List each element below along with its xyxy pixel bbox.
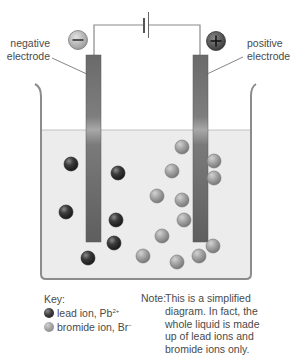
lead-ion [107,236,121,250]
bromide-ion [136,249,150,263]
note-text: This is a simplified diagram. In fact, t… [165,292,265,356]
legend: Key: lead ion, Pb2+ bromide ion, Br− [44,292,132,334]
bromide-ion [175,193,189,207]
note-heading: Note: [141,292,165,356]
negative-electrode [86,55,101,242]
negative-electrode-label: negative electrode [2,37,50,62]
positive-electrode-pointer [205,57,243,75]
lead-ion [111,166,125,180]
bromide-ion [206,239,220,253]
battery-icon [144,12,149,38]
legend-item-lead: lead ion, Pb2+ [44,306,132,320]
negative-electrode-pointer [52,58,89,75]
positive-electrode-label: positive electrode [247,37,297,62]
bromide-ion [175,140,189,154]
bromide-ion [177,213,191,227]
bromide-ion [170,255,184,269]
bromide-ion-icon [44,322,54,332]
legend-item-bromide: bromide ion, Br− [44,320,132,334]
lead-ion [109,213,123,227]
note: Note: This is a simplified diagram. In f… [141,292,265,356]
negative-terminal-icon [69,31,88,50]
bromide-ion [207,154,221,168]
lead-ion-icon [44,308,54,318]
bromide-ion [155,229,169,243]
positive-terminal-icon [207,32,226,51]
bromide-ion [165,164,179,178]
circuit-wire [94,25,200,55]
bromide-ion [207,171,221,185]
bromide-ion [192,249,206,263]
lead-ion [64,157,78,171]
bromide-ion [150,189,164,203]
positive-electrode [193,55,208,242]
legend-heading: Key: [44,292,132,306]
lead-ion [59,205,73,219]
lead-ion [81,251,95,265]
